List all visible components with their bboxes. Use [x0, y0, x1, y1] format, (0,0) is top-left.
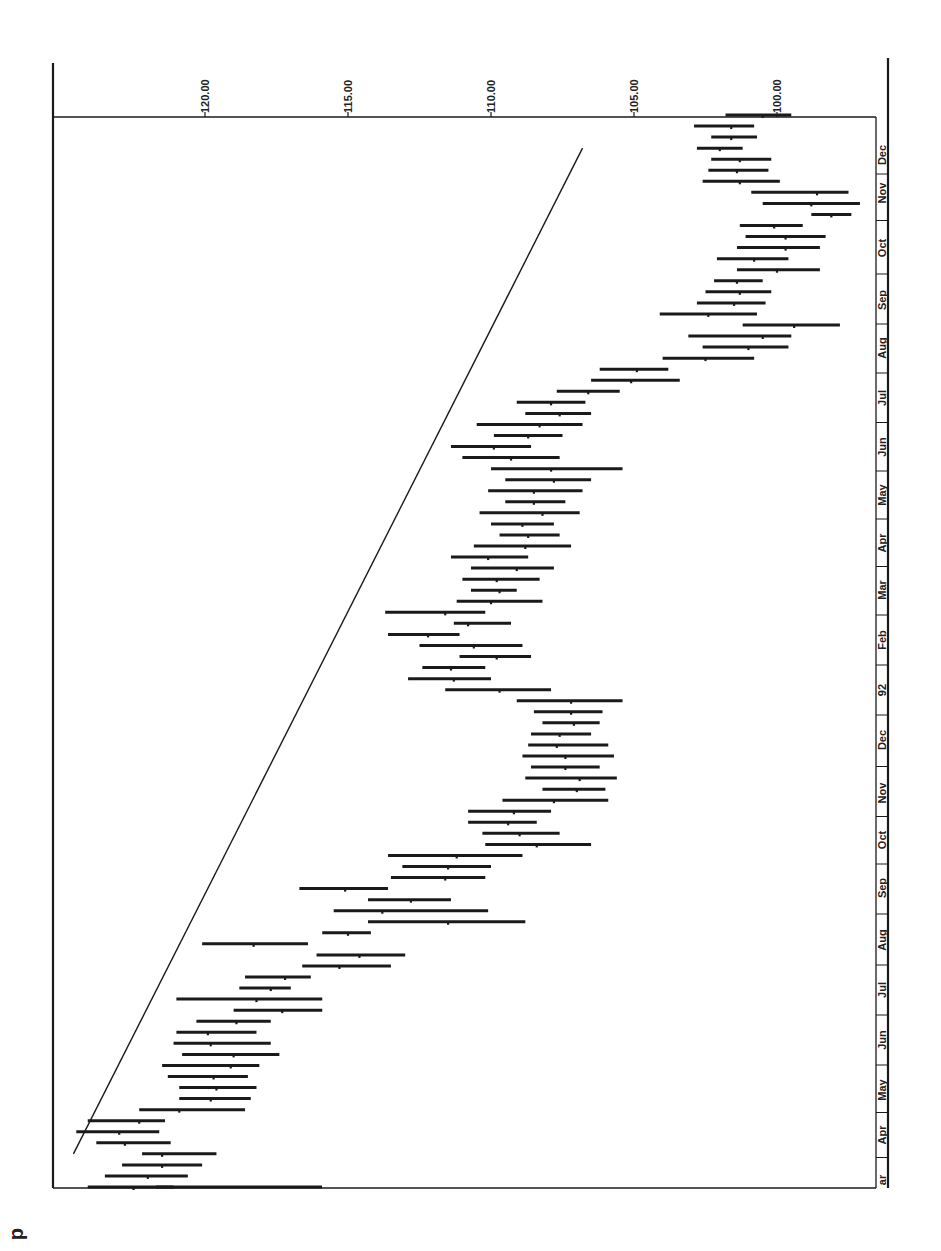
time-tick-label: Dec	[876, 730, 888, 750]
time-tick-label: Nov	[876, 782, 888, 804]
time-tick-label: Nov	[876, 182, 888, 204]
time-tick-label: Feb	[876, 630, 888, 650]
time-tick-label: Jul	[876, 982, 888, 998]
time-tick-label: Oct	[876, 238, 888, 257]
time-tick-label: Sep	[876, 878, 888, 898]
time-tick-label: May	[876, 483, 888, 505]
time-tick-label: Mar	[876, 580, 888, 600]
time-tick-label: ar	[876, 1174, 888, 1185]
value-tick-label: 100.00	[771, 79, 783, 113]
corner-glyph-text: d	[8, 1228, 30, 1240]
value-tick-label: 110.00	[485, 80, 497, 113]
hlc-bar-chart: 120.00115.00110.00105.00100.00 DecNovOct…	[0, 0, 941, 1251]
time-tick-label: Aug	[876, 337, 888, 358]
trendline-segment	[73, 148, 582, 1154]
time-tick-label: Dec	[876, 145, 888, 165]
time-tick-label: Jun	[876, 437, 888, 457]
time-tick-label: Aug	[876, 929, 888, 950]
value-axis: 120.00115.00110.00105.00100.00	[199, 79, 783, 117]
price-bars	[76, 115, 860, 1190]
time-tick-label: Jul	[876, 390, 888, 406]
time-tick-label: Sep	[876, 290, 888, 310]
time-tick-label: Apr	[876, 1125, 888, 1145]
corner-glyph: d	[8, 1226, 30, 1248]
chart-canvas: 120.00115.00110.00105.00100.00 DecNovOct…	[0, 0, 941, 1251]
time-tick-label: May	[876, 1078, 888, 1100]
value-tick-label: 115.00	[342, 80, 354, 113]
time-tick-label: Jun	[876, 1030, 888, 1050]
value-tick-label: 105.00	[628, 79, 640, 113]
time-tick-label: Apr	[876, 533, 888, 553]
time-tick-label: Oct	[876, 830, 888, 849]
time-axis: DecNovOctSepAugJulJunMayAprMarFeb92DecNo…	[876, 145, 888, 1185]
trendline	[73, 148, 582, 1154]
value-tick-label: 120.00	[199, 79, 211, 113]
time-tick-label: 92	[876, 684, 888, 696]
